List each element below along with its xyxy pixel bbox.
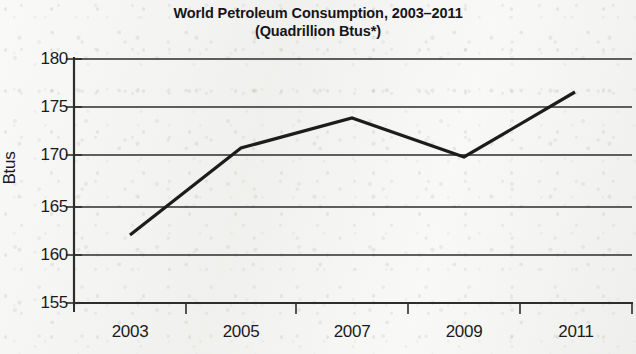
y-tick-label-155: 155 <box>12 293 68 313</box>
y-tick-label-175: 175 <box>12 97 68 117</box>
gridlines <box>74 59 632 255</box>
y-tick-label-180: 180 <box>12 49 68 69</box>
y-tick-label-160: 160 <box>12 245 68 265</box>
x-tick-label-2007: 2007 <box>312 322 392 342</box>
data-series-line <box>130 92 575 235</box>
y-tick-label-165: 165 <box>12 197 68 217</box>
y-tick-label-170: 170 <box>12 145 68 165</box>
y-axis-title: Btus <box>0 140 20 196</box>
x-tick-label-2011: 2011 <box>536 322 616 342</box>
x-tick-label-2003: 2003 <box>90 322 170 342</box>
x-tick-label-2009: 2009 <box>424 322 504 342</box>
x-tick-marks <box>74 296 632 314</box>
plot-area <box>0 0 636 354</box>
x-tick-label-2005: 2005 <box>201 322 281 342</box>
line-chart: World Petroleum Consumption, 2003–2011 (… <box>0 0 636 354</box>
